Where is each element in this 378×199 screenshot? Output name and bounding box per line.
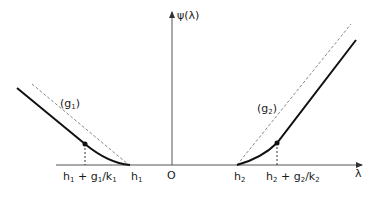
origin-label: O [167,169,176,182]
tick-h1-plus-g1-k1: h1 + g1/k1 [63,170,117,184]
curve-right [237,40,356,165]
point-right [275,141,280,146]
x-axis-label: λ [355,167,362,180]
label-g1: (g1) [60,97,80,111]
label-g2: (g2) [257,102,277,116]
curve-left [17,88,130,165]
tick-h2: h2 [234,170,245,184]
asymptote-g2 [237,24,351,165]
psi-lambda-diagram: ψ(λ) λ O (g1) (g2) h1 + g1/k1 h1 h2 h2 +… [0,0,378,199]
tick-h2-plus-g2-k2: h2 + g2/k2 [266,170,320,184]
y-axis-label: ψ(λ) [177,9,199,22]
tick-h1: h1 [131,170,142,184]
asymptote-g1 [32,84,129,165]
point-left [83,142,88,147]
